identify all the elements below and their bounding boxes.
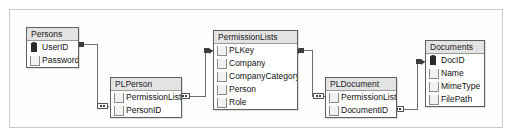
field-row[interactable]: Person [214,83,297,96]
field-row[interactable]: PermissionListID [111,91,181,104]
column-icon [113,92,124,103]
entity-documents[interactable]: Documents DocID Name MimeType FilePath [425,40,485,107]
field-label: FilePath [441,93,472,106]
field-row[interactable]: FilePath [426,93,484,106]
er-diagram-canvas: Persons UserID Password PLPerson Permiss… [0,0,514,139]
field-label: PLKey [229,44,254,57]
column-icon [216,45,227,56]
field-label: DocID [441,54,465,67]
field-row[interactable]: Password [27,54,78,67]
column-icon [29,55,40,66]
entity-persons[interactable]: Persons UserID Password [26,27,79,68]
entity-plperson[interactable]: PLPerson PermissionListID PersonID [110,77,182,118]
field-row[interactable]: PersonID [111,104,181,117]
field-row[interactable]: DocumentID [326,104,396,117]
connector-plperson-permissionlists [205,50,206,96]
field-row[interactable]: DocID [426,54,484,67]
field-label: PermissionListID [126,91,181,104]
entity-permissionlists-fields: PLKey Company CompanyCategory Person Rol… [214,44,297,109]
column-icon [216,97,227,108]
field-row[interactable]: MimeType [426,80,484,93]
field-row[interactable]: Company [214,57,297,70]
field-label: PermissionListID [341,91,396,104]
field-label: DocumentID [341,104,388,117]
column-icon [428,94,439,105]
relationship-end-many-pldocument [313,93,324,99]
field-label: UserID [42,41,68,54]
field-row[interactable]: PermissionListID [326,91,396,104]
entity-persons-fields: UserID Password [27,41,78,67]
connector-plperson-permissionlists [190,96,206,97]
column-icon [216,58,227,69]
column-icon [216,84,227,95]
entity-plperson-fields: PermissionListID PersonID [111,91,181,117]
connector-pldocument-documents [417,61,418,109]
field-row[interactable]: Name [426,67,484,80]
field-row[interactable]: Role [214,96,297,109]
field-row[interactable]: UserID [27,41,78,54]
connector-pldocument-documents [404,109,418,110]
entity-plperson-title: PLPerson [111,78,181,91]
field-label: MimeType [441,80,480,93]
field-label: PersonID [126,104,161,117]
column-icon [328,105,339,116]
field-label: Role [229,96,246,109]
entity-pldocument-title: PLDocument [326,78,396,91]
relationship-end-one-documents [416,58,425,65]
entity-pldocument-fields: PermissionListID DocumentID [326,91,396,117]
relationship-end-many-plperson [97,103,108,109]
field-label: CompanyCategory [229,70,297,83]
entity-permissionlists-title: PermissionLists [214,31,297,44]
field-label: Company [229,57,265,70]
connector-permissionlists-pldocument [312,50,313,96]
column-icon [428,81,439,92]
column-icon [216,71,227,82]
connector-persons-plperson [97,44,98,106]
column-icon [328,92,339,103]
relationship-end-one-permissionlists [204,47,213,54]
field-label: Name [441,67,464,80]
key-icon [428,55,439,66]
column-icon [113,105,124,116]
field-label: Person [229,83,256,96]
field-label: Password [42,54,78,67]
entity-pldocument[interactable]: PLDocument PermissionListID DocumentID [325,77,397,118]
column-icon [428,68,439,79]
key-icon [29,42,40,53]
entity-documents-fields: DocID Name MimeType FilePath [426,54,484,106]
entity-persons-title: Persons [27,28,78,41]
entity-documents-title: Documents [426,41,484,54]
field-row[interactable]: CompanyCategory [214,70,297,83]
field-row[interactable]: PLKey [214,44,297,57]
entity-permissionlists[interactable]: PermissionLists PLKey Company CompanyCat… [213,30,298,110]
